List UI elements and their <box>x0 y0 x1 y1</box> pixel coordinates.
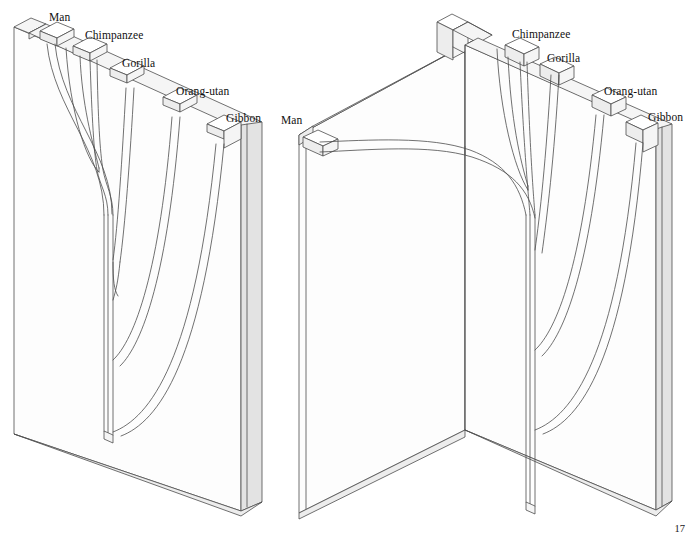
left-label-orangutan: Orang-utan <box>176 86 229 98</box>
right-label-gorilla: Gorilla <box>547 53 580 65</box>
right-label-orangutan: Orang-utan <box>604 86 657 98</box>
left-label-gibbon: Gibbon <box>226 113 261 125</box>
right-right-wall-right-edge <box>656 124 672 510</box>
figure-page: .ol { fill: none; stroke: #4d4d4d; strok… <box>0 0 693 540</box>
page-number: 17 <box>675 523 686 534</box>
left-label-gorilla: Gorilla <box>122 58 155 70</box>
left-slab-right-edge <box>241 122 262 511</box>
right-label-chimpanzee: Chimpanzee <box>512 29 570 41</box>
figure-illustration: .ol { fill: none; stroke: #4d4d4d; strok… <box>0 0 693 540</box>
right-label-gibbon: Gibbon <box>648 112 683 124</box>
left-label-man: Man <box>49 12 70 24</box>
right-label-man: Man <box>281 115 302 127</box>
left-label-chimpanzee: Chimpanzee <box>85 30 143 42</box>
